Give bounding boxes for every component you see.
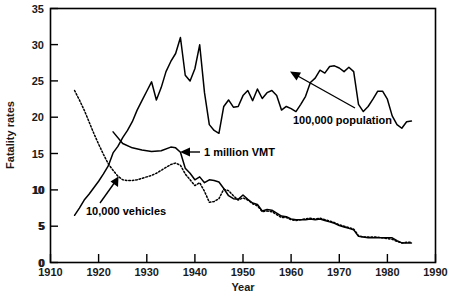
y-axis-tick-text: 05101520253035 <box>32 3 44 269</box>
x-axis-ticks <box>51 254 436 263</box>
y-tick-label: 5 <box>38 220 44 232</box>
y-axis-ticks <box>51 9 59 263</box>
x-tick-label: 1960 <box>279 266 303 278</box>
series-line-100000-population <box>75 38 412 216</box>
figure-fatality-rates: 0 5 10 05101520253035 191019201930194019… <box>0 0 466 297</box>
y-axis-title: Fatality rates <box>4 101 16 169</box>
y-tick-label: 15 <box>32 148 44 160</box>
annotation-label-vmt: 1 million VMT <box>204 146 275 158</box>
x-tick-label: 1910 <box>38 266 62 278</box>
x-axis-tick-text: 191019201930194019501960197019801990 <box>38 266 447 278</box>
annotation-1-million-vmt: 1 million VMT <box>180 146 275 158</box>
x-tick-label: 1950 <box>231 266 255 278</box>
x-axis-title: Year <box>231 281 255 293</box>
annotation-100000-population: 100,000 population <box>290 72 392 127</box>
x-tick-label: 1920 <box>86 266 110 278</box>
y-tick-label: 30 <box>32 39 44 51</box>
y-tick-label: 25 <box>32 75 44 87</box>
x-tick-label: 1990 <box>423 266 447 278</box>
plot-frame <box>51 9 436 263</box>
y-tick-label: 10 <box>32 184 44 196</box>
x-tick-label: 1970 <box>327 266 351 278</box>
x-tick-label: 1980 <box>375 266 399 278</box>
y-tick-label: 35 <box>32 3 44 15</box>
x-tick-label: 1940 <box>183 266 207 278</box>
chart-canvas: 0 5 10 05101520253035 191019201930194019… <box>0 0 466 297</box>
y-tick-label: 20 <box>32 111 44 123</box>
annotation-label-population: 100,000 population <box>293 114 392 126</box>
x-tick-label: 1930 <box>135 266 159 278</box>
annotation-label-vehicles: 10,000 vehicles <box>86 205 166 217</box>
